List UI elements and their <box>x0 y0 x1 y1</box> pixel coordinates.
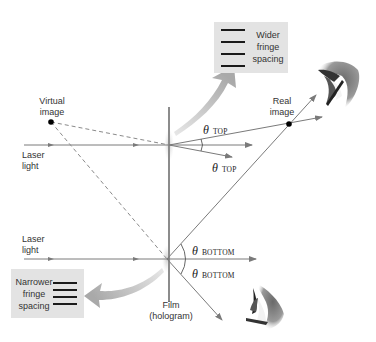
film-hologram-label: Film (hologram) <box>146 300 196 322</box>
laser-light-bottom-label: Laser light <box>22 234 48 256</box>
callout-line: Narrower <box>13 276 55 288</box>
virtual-ray-top <box>51 122 169 145</box>
callout-line: spacing <box>13 300 55 312</box>
fringe-line <box>221 41 245 43</box>
narrower-callout-text: Narrower fringe spacing <box>13 276 55 312</box>
callout-line: fringe <box>13 288 55 300</box>
narrower-fringe-callout: Narrower fringe spacing <box>11 269 84 318</box>
virtual-image-dot <box>48 119 54 125</box>
theta-top-lower-label: θ TOP <box>212 158 237 176</box>
eye-icon-lower <box>246 283 284 330</box>
callout-line: Wider <box>248 29 288 41</box>
laser-light-top-label: Laser light <box>22 150 48 172</box>
fringe-line <box>221 29 245 31</box>
fringe-line <box>221 53 245 55</box>
callout-line: fringe <box>248 41 288 53</box>
theta-bottom-lower-label: θ BOTTOM <box>192 264 235 282</box>
callout-line: spacing <box>248 53 288 65</box>
fringe-line <box>221 65 245 67</box>
fringe-line <box>53 282 77 284</box>
ray-top-down <box>169 145 232 157</box>
wider-fringe-callout: Wider fringe spacing <box>214 22 288 73</box>
wider-callout-text: Wider fringe spacing <box>248 29 288 65</box>
fringe-line <box>53 303 77 305</box>
real-image-dot <box>286 121 292 127</box>
virtual-image-label: Virtual image <box>32 96 72 118</box>
fringe-line <box>53 296 77 298</box>
real-image-label: Real image <box>264 96 300 118</box>
fringe-line <box>53 289 77 291</box>
eye-icon-upper <box>317 61 359 108</box>
ray-bottom-up <box>167 95 316 259</box>
theta-bottom-upper-label: θ BOTTOM <box>192 241 235 259</box>
virtual-ray-bottom <box>51 122 167 259</box>
theta-top-upper-label: θ TOP <box>203 120 228 138</box>
